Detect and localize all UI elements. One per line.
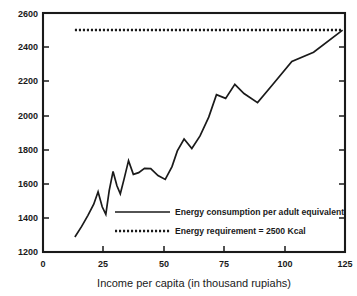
chart-figure: 1200 1400 1600 1800 2000 2200 2400 2600 … [0,0,357,296]
legend-label-requirement: Energy requirement = 2500 Kcal [175,226,306,236]
y-tick-label-2400: 2400 [18,42,38,52]
x-tick-label-0: 0 [40,259,45,269]
legend-label-consumption: Energy consumption per adult equivalent [175,207,344,217]
y-tick-label-1600: 1600 [18,179,38,189]
energy-consumption-line-chart: 1200 1400 1600 1800 2000 2200 2400 2600 … [0,0,357,296]
y-tick-label-1800: 1800 [18,145,38,155]
y-tick-label-1400: 1400 [18,213,38,223]
series-energy-consumption-line [75,30,343,237]
y-tick-label-1200: 1200 [18,247,38,257]
x-tick-label-50: 50 [159,259,169,269]
y-tick-label-2200: 2200 [18,76,38,86]
x-tick-label-75: 75 [219,259,229,269]
y-tick-label-2000: 2000 [18,111,38,121]
x-axis-title: Income per capita (in thousand rupiahs) [97,277,291,289]
x-tick-label-100: 100 [277,259,292,269]
x-tick-label-25: 25 [98,259,108,269]
x-tick-label-125: 125 [337,259,352,269]
chart-legend: Energy consumption per adult equivalent … [115,207,344,236]
y-tick-label-2600: 2600 [18,9,38,19]
